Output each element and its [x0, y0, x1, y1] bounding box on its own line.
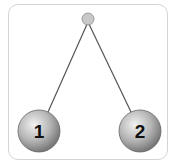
- pendulum-diagram: 1 2: [0, 0, 177, 165]
- pivot-point: [82, 13, 94, 25]
- ball-1-label: 1: [34, 121, 45, 142]
- ball-2-label: 2: [135, 121, 146, 142]
- string-2: [88, 22, 131, 112]
- ball-1: 1: [18, 110, 60, 152]
- string-1: [48, 22, 88, 112]
- ball-2: 2: [119, 110, 161, 152]
